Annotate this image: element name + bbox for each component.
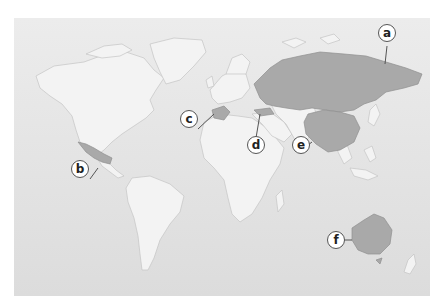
leader-a <box>385 46 387 64</box>
callout-a: a <box>378 24 396 42</box>
callout-b: b <box>71 160 89 178</box>
region-australia <box>352 214 392 254</box>
callout-label-d: d <box>252 139 261 151</box>
south-america <box>126 176 184 270</box>
world-map-panel: a b c d e f <box>14 18 430 296</box>
europe <box>210 70 250 104</box>
callout-c: c <box>180 110 198 128</box>
callout-label-b: b <box>76 163 85 175</box>
region-russia <box>254 52 422 112</box>
callout-d: d <box>247 136 265 154</box>
callout-label-f: f <box>333 234 338 246</box>
callout-f: f <box>327 231 345 249</box>
world-map <box>14 18 430 296</box>
north-america <box>36 52 164 156</box>
callout-label-e: e <box>297 139 305 151</box>
callout-e: e <box>292 136 310 154</box>
region-china <box>304 110 360 152</box>
leader-b <box>90 168 98 179</box>
callout-label-c: c <box>185 113 192 125</box>
callout-label-a: a <box>383 27 391 39</box>
